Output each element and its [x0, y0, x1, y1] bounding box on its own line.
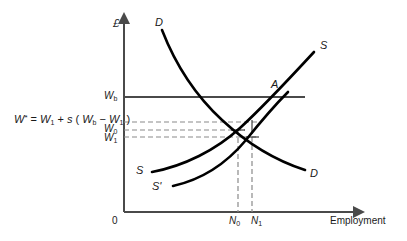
equation-paren-close: )	[123, 113, 130, 125]
equation-star: *	[24, 113, 27, 122]
y-axis-label: £	[113, 18, 119, 29]
wage-w1-tick-label: W1	[104, 133, 117, 143]
demand-curve-label-bottom: D	[310, 168, 318, 179]
equation-w1-second: W	[109, 113, 119, 125]
supply-curve-label-left: S	[136, 165, 143, 176]
wage-benefit-subscript: b	[113, 95, 117, 102]
supply-shifted-curve	[173, 92, 288, 186]
wage-w1-subscript: 1	[113, 137, 117, 144]
wage-benefit-tick-label: Wb	[104, 91, 117, 101]
equation-minus: −	[96, 113, 109, 125]
equation-wb: W	[82, 113, 92, 125]
equation-wb-subscript: b	[93, 119, 97, 126]
equation-w1-first-subscript: 1	[50, 119, 54, 126]
equation-plus: +	[54, 113, 67, 125]
origin-label: 0	[112, 216, 118, 226]
supply-curve-label-right: S	[320, 40, 327, 51]
employment-n0-tick-label: N0	[229, 216, 240, 226]
employment-n0-subscript: 0	[236, 220, 240, 227]
demand-curve	[162, 30, 305, 170]
diagram-canvas: £ Employment 0 D D S S S' A Wb W0 W1 N0 …	[0, 0, 407, 241]
equation-w1-second-subscript: 1	[119, 119, 123, 126]
employment-n1-tick-label: N1	[251, 216, 262, 226]
equation-paren-open: (	[72, 113, 82, 125]
employment-n1-subscript: 1	[258, 220, 262, 227]
equation-lhs-symbol: W	[14, 113, 24, 125]
equation-w1-first: W	[40, 113, 50, 125]
equation-equals: =	[28, 113, 41, 125]
x-axis-label: Employment	[330, 216, 386, 226]
supply-shifted-curve-label: S'	[152, 181, 161, 192]
reservation-wage-equation: W* = W1 + s ( Wb − W1 )	[14, 114, 130, 125]
point-a-label: A	[271, 79, 278, 90]
demand-curve-label-top: D	[155, 17, 163, 28]
